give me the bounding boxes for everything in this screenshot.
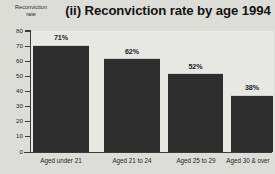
y-tick-mark [25,106,31,107]
category-label: Aged 21 to 24 [97,157,167,164]
bar [104,58,160,152]
bar [168,73,223,152]
y-tick-label: 70 [5,43,23,49]
y-tick-label: 30 [5,103,23,109]
y-tick-mark [25,136,31,137]
x-axis-line [24,152,272,153]
y-tick-mark [25,46,31,47]
y-tick-label: 40 [5,88,23,94]
y-axis-title-line1: Reconviction [15,4,47,10]
bar-value-label: 71% [33,35,89,43]
y-tick-label: 0 [5,149,23,155]
y-tick-label: 80 [5,28,23,34]
y-tick-mark [25,76,31,77]
chart-title: (ii) Reconviction rate by age 1994 [64,3,272,18]
bar [231,95,273,152]
bar-value-label: 62% [104,49,160,57]
y-tick-mark [25,61,31,62]
y-tick-mark [25,91,31,92]
category-label: Aged under 21 [26,157,96,164]
bar [33,45,89,152]
y-axis-title: Reconviction rate [6,4,56,18]
y-axis-title-line2: rate [6,11,56,18]
category-label: Aged 30 & over [217,157,275,164]
y-tick-label: 20 [5,118,23,124]
y-tick-label: 50 [5,73,23,79]
reconviction-rate-bar-chart: (ii) Reconviction rate by age 1994 Recon… [0,0,275,174]
bar-value-label: 38% [231,85,273,93]
bar-value-label: 52% [168,64,223,72]
y-tick-mark [25,121,31,122]
y-tick-label: 10 [5,133,23,139]
y-tick-mark [25,30,31,31]
y-tick-label: 60 [5,58,23,64]
